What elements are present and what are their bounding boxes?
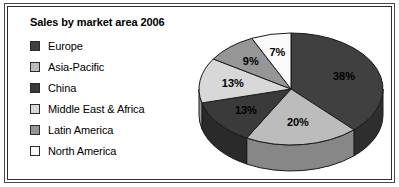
legend-item-north-america[interactable]: North America <box>30 140 195 161</box>
legend-swatch-europe <box>30 41 40 51</box>
legend-swatch-middle-east-africa <box>30 104 40 114</box>
chart-legend: Europe Asia-Pacific China Middle East & … <box>30 35 195 161</box>
pie-value-label-north-america: 7% <box>269 46 285 58</box>
legend-item-europe[interactable]: Europe <box>30 35 195 56</box>
chart-canvas: Sales by market area 2006 Europe Asia-Pa… <box>8 7 391 179</box>
legend-swatch-north-america <box>30 146 40 156</box>
pie-chart-svg: 38%20%13%13%9%7% <box>193 15 389 177</box>
legend-swatch-latin-america <box>30 125 40 135</box>
legend-label-china: China <box>48 82 76 94</box>
legend-swatch-asia-pacific <box>30 62 40 72</box>
legend-item-asia-pacific[interactable]: Asia-Pacific <box>30 56 195 77</box>
pie-value-label-china: 13% <box>235 104 257 116</box>
legend-label-north-america: North America <box>48 145 116 157</box>
pie-value-label-asia-pacific: 20% <box>287 116 309 128</box>
chart-title: Sales by market area 2006 <box>30 16 165 28</box>
legend-label-latin-america: Latin America <box>48 124 113 136</box>
pie-value-label-middle-east-africa: 13% <box>222 77 244 89</box>
legend-item-middle-east-africa[interactable]: Middle East & Africa <box>30 98 195 119</box>
legend-swatch-china <box>30 83 40 93</box>
legend-label-europe: Europe <box>48 40 83 52</box>
chart-figure: Sales by market area 2006 Europe Asia-Pa… <box>0 0 399 187</box>
legend-label-asia-pacific: Asia-Pacific <box>48 61 104 73</box>
pie-value-label-latin-america: 9% <box>243 55 259 67</box>
legend-item-latin-america[interactable]: Latin America <box>30 119 195 140</box>
legend-item-china[interactable]: China <box>30 77 195 98</box>
pie-value-label-europe: 38% <box>333 70 355 82</box>
legend-label-middle-east-africa: Middle East & Africa <box>48 103 144 115</box>
pie-chart: 38%20%13%13%9%7% <box>193 15 389 177</box>
